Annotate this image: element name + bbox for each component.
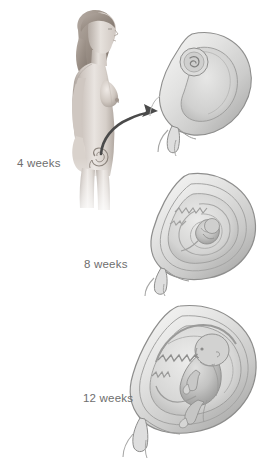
uterus-12-weeks-cross-section bbox=[112, 300, 264, 467]
pregnancy-stages-figure: 4 weeks 8 weeks 12 weeks bbox=[0, 0, 267, 468]
stage-label-8-weeks: 8 weeks bbox=[84, 258, 128, 270]
stage-label-4-weeks: 4 weeks bbox=[17, 157, 61, 169]
uterus-8-weeks-cross-section bbox=[133, 168, 266, 300]
uterus-4-weeks-cross-section bbox=[140, 22, 265, 161]
stage-label-12-weeks: 12 weeks bbox=[83, 392, 133, 404]
